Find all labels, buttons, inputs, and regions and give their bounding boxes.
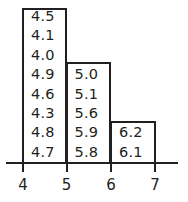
histogram-chart: 4.5 4.1 4.0 4.9 4.6 4.3 4.8 4.7 5.0 5.1 …: [0, 0, 188, 202]
x-axis-tick-label: 6: [99, 176, 123, 194]
x-axis-tick: [154, 155, 156, 172]
x-axis-tick: [66, 155, 68, 172]
data-value-cell: 5.1: [68, 85, 110, 104]
data-value-cell: 4.3: [24, 104, 65, 123]
data-value-cell: 5.6: [68, 104, 110, 123]
bar-5-value-stack: 5.0 5.1 5.6 5.9 5.8: [68, 64, 110, 162]
data-value-cell: 5.0: [68, 65, 110, 84]
histogram-bar-6[interactable]: 6.2 6.1: [110, 121, 156, 162]
data-value-cell: 4.9: [24, 65, 65, 84]
histogram-bar-4[interactable]: 4.5 4.1 4.0 4.9 4.6 4.3 4.8 4.7: [22, 8, 67, 162]
bar-6-value-stack: 6.2 6.1: [112, 123, 154, 162]
data-value-cell: 4.7: [24, 143, 65, 162]
x-axis-tick: [110, 155, 112, 172]
x-axis-tick: [22, 155, 24, 172]
bar-4-value-stack: 4.5 4.1 4.0 4.9 4.6 4.3 4.8 4.7: [24, 10, 65, 162]
data-value-cell: 4.8: [24, 123, 65, 142]
data-value-cell: 4.5: [24, 7, 65, 26]
data-value-cell: 6.2: [112, 123, 154, 142]
data-value-cell: 6.1: [112, 143, 154, 162]
data-value-cell: 4.6: [24, 85, 65, 104]
x-axis-tick-label: 7: [143, 176, 167, 194]
x-axis-tick-label: 5: [55, 176, 79, 194]
data-value-cell: 5.8: [68, 143, 110, 162]
x-axis-tick-label: 4: [11, 176, 35, 194]
histogram-bar-5[interactable]: 5.0 5.1 5.6 5.9 5.8: [66, 62, 112, 162]
data-value-cell: 4.0: [24, 46, 65, 65]
x-axis-line: [6, 162, 178, 164]
data-value-cell: 4.1: [24, 26, 65, 45]
data-value-cell: 5.9: [68, 123, 110, 142]
